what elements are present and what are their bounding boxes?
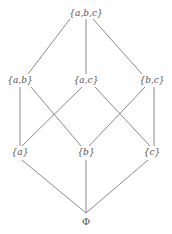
node-ab: {a,b} [6, 76, 33, 85]
edge-c-empty [86, 160, 148, 213]
edge-bc-b [89, 87, 145, 146]
node-c: {c} [143, 148, 162, 157]
node-abc: {a,b,c} [68, 9, 103, 18]
edge-a-empty [22, 160, 86, 213]
node-empty-set: Φ [81, 217, 91, 227]
edge-abc-bc [93, 19, 142, 74]
node-bc: {b,c} [138, 76, 165, 85]
edge-ac-c [95, 87, 150, 146]
node-a: {a} [11, 148, 30, 157]
edge-abc-ab [28, 19, 70, 74]
node-ac: {a,c} [73, 76, 100, 85]
hasse-diagram-edges [0, 0, 172, 234]
node-b: {b} [76, 148, 95, 157]
